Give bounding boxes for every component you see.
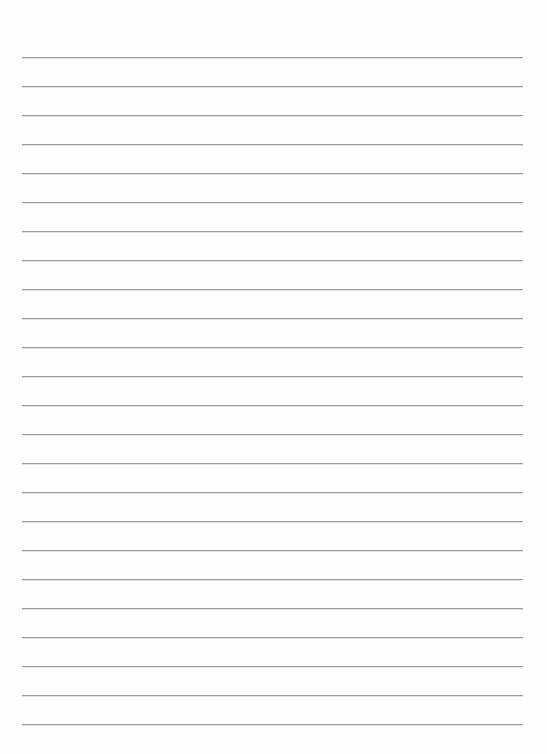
lined-paper-page [0, 0, 547, 754]
ruled-line [22, 579, 523, 580]
ruled-line [22, 434, 523, 435]
ruled-line [22, 695, 523, 696]
ruled-line [22, 173, 523, 174]
ruled-line [22, 289, 523, 290]
ruled-line [22, 637, 523, 638]
ruled-line [22, 57, 523, 58]
ruled-line [22, 231, 523, 232]
ruled-line [22, 463, 523, 464]
ruled-line [22, 260, 523, 261]
ruled-line [22, 115, 523, 116]
ruled-line [22, 376, 523, 377]
ruled-line [22, 347, 523, 348]
ruled-line [22, 666, 523, 667]
ruled-line [22, 492, 523, 493]
ruled-line [22, 608, 523, 609]
ruled-line [22, 144, 523, 145]
ruled-line [22, 86, 523, 87]
ruled-line [22, 318, 523, 319]
ruled-line [22, 724, 523, 725]
ruled-line [22, 202, 523, 203]
ruled-line [22, 550, 523, 551]
ruled-line [22, 405, 523, 406]
ruled-line [22, 521, 523, 522]
